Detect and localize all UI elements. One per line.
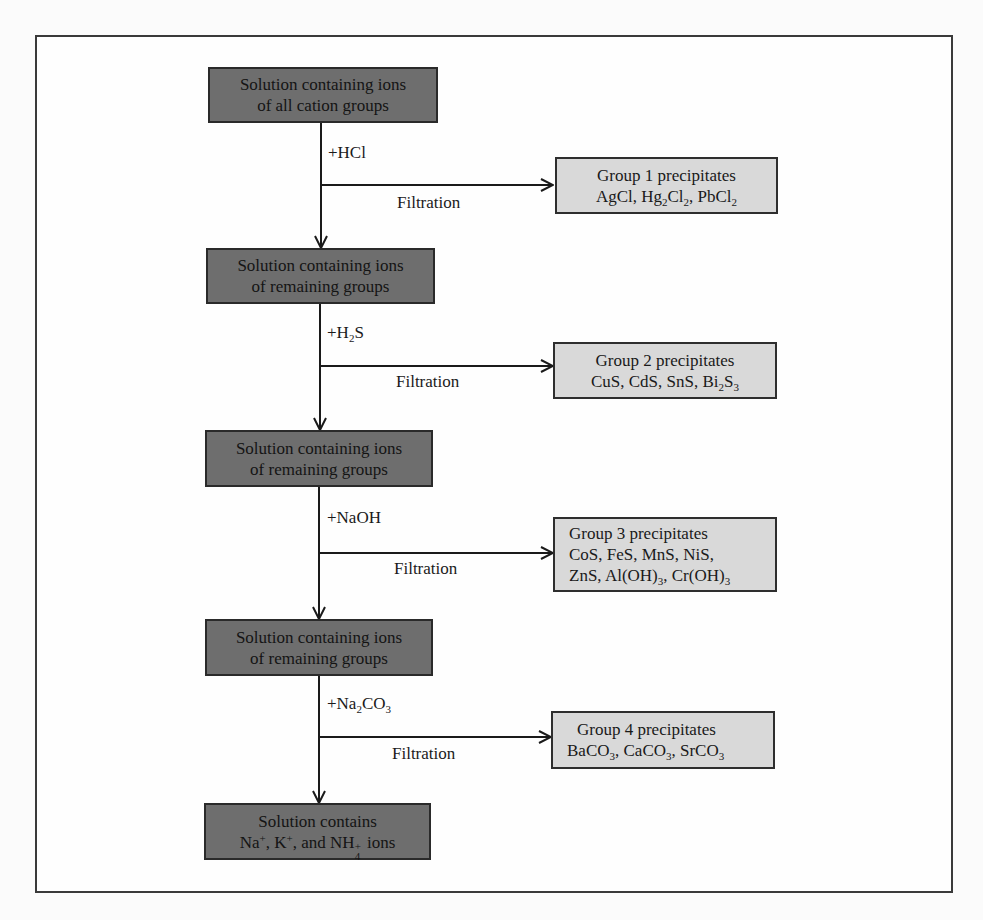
filtration-label: Filtration bbox=[396, 372, 459, 392]
reagent-label-naoh: +NaOH bbox=[327, 508, 381, 528]
precipitate-title: Group 1 precipitates bbox=[557, 165, 776, 186]
precipitate-compounds: AgCl, Hg2Cl2, PbCl2 bbox=[557, 186, 776, 207]
solution-box-line1: Solution containing ions bbox=[207, 627, 431, 648]
solution-box-line2: of remaining groups bbox=[207, 648, 431, 669]
solution-box-line2: Na+, K+, and NH+4 ions bbox=[206, 832, 429, 853]
precipitate-box-group4: Group 4 precipitates BaCO3, CaCO3, SrCO3 bbox=[551, 711, 775, 769]
flow-line bbox=[318, 676, 320, 803]
solution-box-line2: of remaining groups bbox=[208, 276, 433, 297]
filtration-label: Filtration bbox=[392, 744, 455, 764]
arrow-down-icon bbox=[312, 606, 326, 620]
precipitate-box-group1: Group 1 precipitates AgCl, Hg2Cl2, PbCl2 bbox=[555, 157, 778, 214]
filtration-label: Filtration bbox=[394, 559, 457, 579]
precipitate-box-group3: Group 3 precipitates CoS, FeS, MnS, NiS,… bbox=[553, 517, 777, 592]
arrow-right-icon bbox=[540, 359, 554, 373]
filtration-label: Filtration bbox=[397, 193, 460, 213]
precipitate-compounds: CuS, CdS, SnS, Bi2S3 bbox=[555, 371, 775, 392]
solution-box-line1: Solution containing ions bbox=[210, 74, 436, 95]
solution-box-remaining-3: Solution containing ions of remaining gr… bbox=[205, 619, 433, 676]
arrow-down-icon bbox=[312, 790, 326, 804]
precipitate-title: Group 2 precipitates bbox=[555, 350, 775, 371]
precipitate-box-group2: Group 2 precipitates CuS, CdS, SnS, Bi2S… bbox=[553, 342, 777, 399]
solution-box-remaining-1: Solution containing ions of remaining gr… bbox=[206, 248, 435, 304]
precipitate-compounds-line2: ZnS, Al(OH)3, Cr(OH)3 bbox=[569, 565, 775, 586]
flow-line bbox=[319, 304, 321, 430]
reagent-label-h2s: +H2S bbox=[327, 323, 364, 343]
branch-line bbox=[319, 365, 552, 367]
solution-box-line2: of remaining groups bbox=[207, 459, 431, 480]
solution-box-line2: of all cation groups bbox=[210, 95, 436, 116]
arrow-down-icon bbox=[314, 235, 328, 249]
reagent-text: +HCl bbox=[328, 143, 366, 162]
diagram-frame bbox=[35, 35, 953, 893]
solution-box-all-cations: Solution containing ions of all cation g… bbox=[208, 67, 438, 123]
solution-box-final: Solution contains Na+, K+, and NH+4 ions bbox=[204, 803, 431, 860]
reagent-label-na2co3: +Na2CO3 bbox=[327, 694, 391, 714]
arrow-down-icon bbox=[313, 417, 327, 431]
branch-line bbox=[318, 552, 552, 554]
arrow-right-icon bbox=[538, 730, 552, 744]
branch-line bbox=[318, 736, 550, 738]
precipitate-title: Group 4 precipitates bbox=[567, 719, 773, 740]
reagent-label-hcl: +HCl bbox=[328, 143, 366, 163]
solution-box-line1: Solution contains bbox=[206, 811, 429, 832]
branch-line bbox=[320, 184, 552, 186]
solution-box-line1: Solution containing ions bbox=[208, 255, 433, 276]
solution-box-line1: Solution containing ions bbox=[207, 438, 431, 459]
solution-box-remaining-2: Solution containing ions of remaining gr… bbox=[205, 430, 433, 487]
arrow-right-icon bbox=[540, 546, 554, 560]
precipitate-compounds: BaCO3, CaCO3, SrCO3 bbox=[567, 740, 773, 761]
precipitate-compounds-line1: CoS, FeS, MnS, NiS, bbox=[569, 544, 775, 565]
arrow-right-icon bbox=[540, 178, 554, 192]
precipitate-title: Group 3 precipitates bbox=[569, 523, 775, 544]
